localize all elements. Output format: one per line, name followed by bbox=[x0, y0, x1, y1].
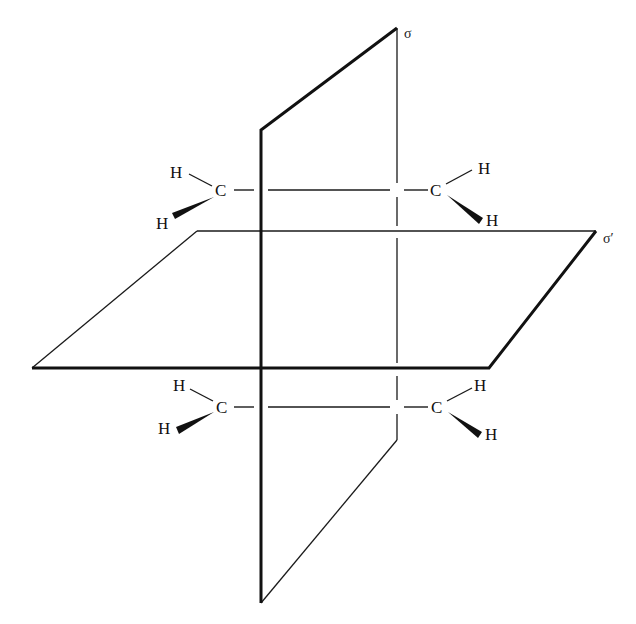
horizontal-plane-sigma-prime bbox=[32, 231, 596, 368]
wedge-bond bbox=[176, 412, 214, 434]
upper-left-carbon: C bbox=[215, 181, 226, 200]
upper-left-h-top: H bbox=[170, 163, 182, 182]
upper-right-h-top: H bbox=[478, 159, 490, 178]
upper-right-h-bottom: H bbox=[486, 211, 498, 230]
plane-bottom-edge bbox=[261, 440, 397, 603]
lower-right-h-top: H bbox=[474, 376, 486, 395]
vertical-plane-sigma-front bbox=[261, 28, 397, 603]
plane-top-edge bbox=[261, 28, 397, 603]
lower-right-h-bottom: H bbox=[485, 425, 497, 444]
bond bbox=[446, 170, 472, 184]
horizontal-plane-sigma-prime-front bbox=[32, 231, 596, 368]
upper-ethylene: H H C C H H bbox=[156, 159, 498, 233]
wedge-bond bbox=[448, 412, 482, 438]
sigma-label: σ bbox=[404, 26, 412, 41]
bond bbox=[190, 389, 213, 401]
wedge-bond bbox=[447, 195, 483, 224]
lower-right-carbon: C bbox=[431, 398, 442, 417]
lower-left-h-top: H bbox=[173, 376, 185, 395]
lower-ethylene: H H C C H H bbox=[158, 376, 497, 444]
lower-left-carbon: C bbox=[216, 398, 227, 417]
upper-right-carbon: C bbox=[430, 181, 441, 200]
upper-left-h-bottom: H bbox=[156, 214, 168, 233]
plane-left-edge bbox=[32, 231, 197, 368]
symmetry-diagram: H H C C H H H H C C H H σ bbox=[0, 0, 636, 624]
lower-left-h-bottom: H bbox=[158, 419, 170, 438]
bond bbox=[447, 388, 472, 401]
bond bbox=[189, 174, 212, 186]
wedge-bond bbox=[172, 197, 214, 219]
plane-front-edge bbox=[32, 231, 596, 368]
sigma-prime-label: σ′ bbox=[603, 231, 614, 246]
